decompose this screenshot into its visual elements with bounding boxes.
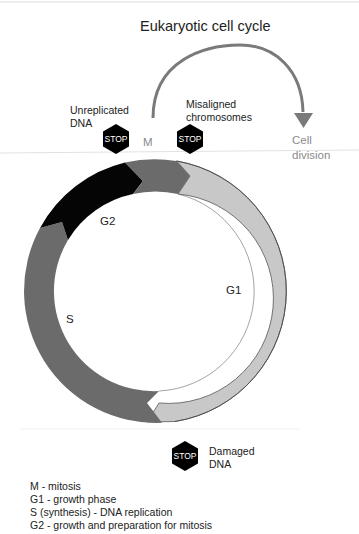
- phase-label-m: M: [143, 136, 153, 148]
- damaged-dna-label: Damaged DNA: [209, 445, 255, 471]
- s-segment: [24, 222, 162, 423]
- label-line: Cell: [292, 133, 330, 148]
- phase-label-g2: G2: [100, 215, 115, 227]
- label-line: Damaged: [209, 445, 255, 458]
- phase-label-s: S: [66, 313, 74, 325]
- stop-sign-icon-misaligned: STOP: [177, 124, 203, 154]
- label-line: chromosomes: [186, 111, 252, 124]
- label-line: DNA: [70, 117, 129, 130]
- cell-cycle-diagram: STOP STOP STOP: [0, 0, 359, 534]
- legend-item-g1: G1 - growth phase: [30, 493, 212, 506]
- legend-item-m: M - mitosis: [30, 480, 212, 493]
- g1-segment: [147, 161, 286, 422]
- legend-item-s: S (synthesis) - DNA replication: [30, 506, 212, 519]
- unreplicated-dna-label: Unreplicated DNA: [70, 104, 129, 130]
- diagram-title: Eukaryotic cell cycle: [140, 18, 271, 34]
- legend-item-g2: G2 - growth and preparation for mitosis: [30, 519, 212, 532]
- legend: M - mitosis G1 - growth phase S (synthes…: [30, 480, 212, 532]
- svg-text:STOP: STOP: [179, 134, 202, 144]
- svg-text:STOP: STOP: [105, 134, 128, 144]
- misaligned-chromosomes-label: Misaligned chromosomes: [186, 98, 252, 124]
- cell-division-label: Cell division: [292, 133, 330, 163]
- phase-label-g1: G1: [226, 284, 241, 296]
- arrowhead-icon: [294, 113, 313, 128]
- label-line: Misaligned: [186, 98, 252, 111]
- label-line: division: [292, 148, 330, 163]
- label-line: DNA: [209, 458, 255, 471]
- stop-sign-icon-damaged: STOP: [172, 441, 198, 471]
- label-line: Unreplicated: [70, 104, 129, 117]
- svg-text:STOP: STOP: [174, 451, 197, 461]
